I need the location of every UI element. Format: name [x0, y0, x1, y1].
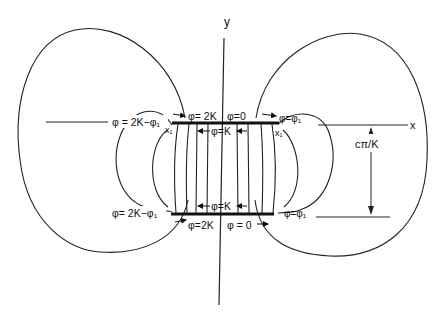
label-bottom-right: φ = 0 [227, 219, 252, 231]
dimension-label: cπ/K [355, 138, 379, 150]
right-outer-field-line [255, 33, 427, 256]
left-inner-loop-2 [153, 130, 168, 207]
x-axis-label: x [410, 119, 416, 131]
label-right-upper: φ=φ₁ [279, 113, 302, 124]
label-left-lower: φ= 2K−φ₁ [112, 207, 158, 219]
y-axis-label: y [224, 15, 230, 29]
label-bottom-middle: φ=K [211, 200, 231, 212]
label-right-lower: φ=φ₁ [284, 208, 307, 219]
label-top-right: φ=0 [227, 110, 246, 122]
label-bottom-left: φ=2K [188, 219, 214, 231]
label-top-left: φ= 2K [188, 110, 217, 122]
label-left-upper: φ = 2K−φ₁ [112, 116, 161, 128]
label-x1-right: x₁ [275, 128, 283, 138]
label-x1-left: x₁ [165, 125, 173, 135]
right-inner-loop-2 [283, 130, 298, 207]
field-line-diagram: y x cπ/K φ= 2K φ=0 φ=K φ=K [0, 0, 441, 319]
right-inner-loop-1 [278, 114, 333, 213]
y-axis [219, 38, 224, 305]
label-top-middle: φ=K [211, 125, 231, 137]
